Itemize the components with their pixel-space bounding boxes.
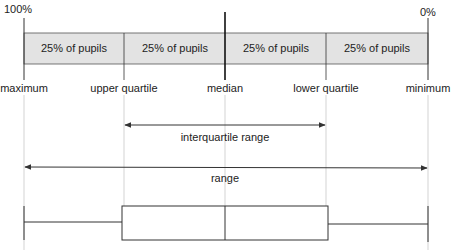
label-upper-quartile: upper quartile bbox=[90, 82, 157, 94]
label-lower-quartile: lower quartile bbox=[293, 82, 358, 94]
label-maximum: maximum bbox=[0, 82, 48, 94]
range-arrow bbox=[25, 167, 427, 168]
label-range: range bbox=[211, 172, 239, 184]
label-median: median bbox=[207, 82, 243, 94]
label-interquartile-range: interquartile range bbox=[181, 131, 270, 143]
band-segment-1: 25% of pupils bbox=[41, 42, 108, 54]
box-plot bbox=[24, 206, 428, 242]
band-segment-3: 25% of pupils bbox=[243, 42, 310, 54]
band-segment-2: 25% of pupils bbox=[142, 42, 209, 54]
label-100-percent: 100% bbox=[4, 3, 32, 15]
boxplot-explainer-diagram: 100% 0% 25% of pupils 25% of pupils 25% … bbox=[0, 0, 453, 252]
label-minimum: minimum bbox=[406, 82, 451, 94]
band-segment-4: 25% of pupils bbox=[344, 42, 411, 54]
label-0-percent: 0% bbox=[420, 6, 436, 18]
